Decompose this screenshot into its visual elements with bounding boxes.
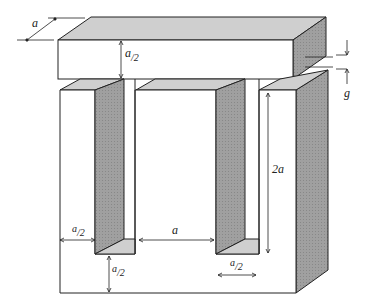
window-width-label: a [172, 223, 178, 237]
top-yoke [58, 17, 326, 79]
lower-core [60, 70, 328, 293]
core-diagram: a a/2 g 2a a/2 a a/2 a/2 [0, 0, 370, 307]
window-height-label: 2a [272, 162, 284, 176]
depth-label: a [32, 16, 38, 30]
gap-label: g [344, 86, 350, 100]
